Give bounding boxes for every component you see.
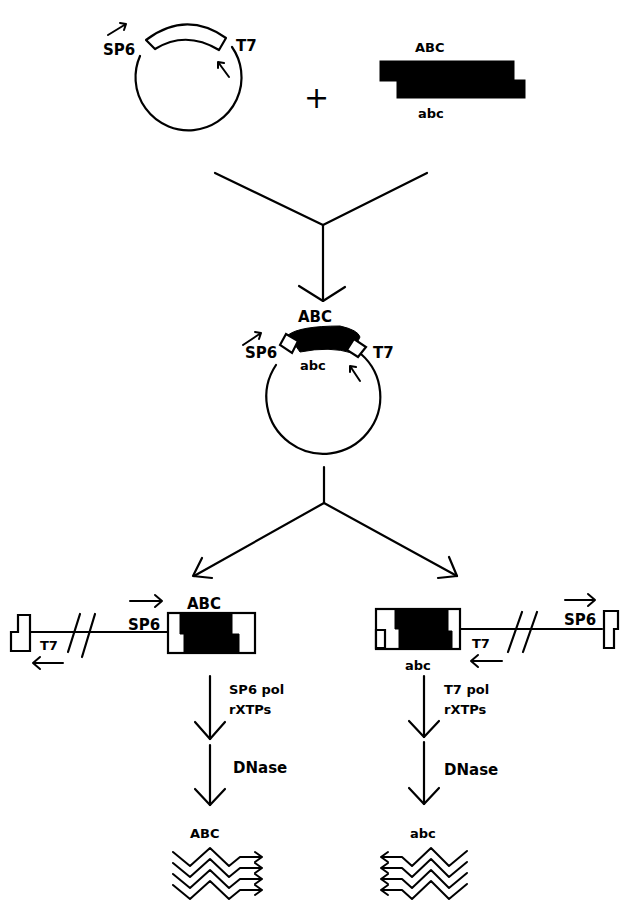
top-strand-label: ABC xyxy=(298,308,332,326)
sp6-direction-arrow-icon xyxy=(130,595,162,607)
far-promoter-label: T7 xyxy=(40,638,58,653)
near-promoter-label: T7 xyxy=(472,636,490,651)
t7-direction-arrow-icon xyxy=(350,366,360,381)
insert-dna-fragment: ABC abc xyxy=(380,40,525,121)
sp6-label: SP6 xyxy=(245,344,277,362)
sp6-direction-arrow-icon xyxy=(565,594,595,606)
right-reaction-steps: T7 pol rXTPs DNase xyxy=(409,676,498,804)
polymerase-label: SP6 pol xyxy=(229,682,284,697)
far-promoter-label: SP6 xyxy=(564,611,596,629)
plus-sign: + xyxy=(304,80,329,115)
insert-label: ABC xyxy=(187,595,221,613)
sp6-direction-arrow-icon xyxy=(108,23,126,35)
insert-end-notch xyxy=(376,630,385,648)
near-promoter-label: SP6 xyxy=(128,616,160,634)
multiple-cloning-site xyxy=(146,24,226,50)
insert-bottom-strand-label: abc xyxy=(418,106,444,121)
insert-fragment xyxy=(180,614,239,652)
product-label: ABC xyxy=(190,826,220,841)
transcription-diagram: SP6 T7 + ABC abc ABC abc SP6 T7 xyxy=(0,0,635,924)
t7-direction-arrow-icon xyxy=(471,655,502,667)
right-linear-template: SP6 T7 abc xyxy=(376,594,618,673)
empty-vector-plasmid: SP6 T7 xyxy=(103,23,257,130)
bottom-strand-label: abc xyxy=(300,358,326,373)
rna-strands-icon xyxy=(381,848,467,899)
product-label: abc xyxy=(410,826,436,841)
insert-fragment xyxy=(395,610,452,648)
t7-label: T7 xyxy=(236,37,257,55)
break-mark-icon xyxy=(68,614,95,657)
nucleotides-label: rXTPs xyxy=(444,702,487,717)
ligation-arrow-icon xyxy=(215,173,427,301)
t7-promoter-end-box xyxy=(11,615,30,651)
dnase-label: DNase xyxy=(444,761,498,779)
polymerase-label: T7 pol xyxy=(444,682,489,697)
antisense-rna-transcripts: abc xyxy=(381,826,467,899)
insert-bottom-strand xyxy=(397,80,525,98)
linearization-split-arrow-icon xyxy=(193,467,457,578)
t7-direction-arrow-icon xyxy=(218,62,229,77)
plasmid-backbone xyxy=(136,47,242,130)
insert-top-strand xyxy=(380,61,514,81)
insert-top-strand-label: ABC xyxy=(415,40,445,55)
sp6-label: SP6 xyxy=(103,41,135,59)
sense-rna-transcripts: ABC xyxy=(173,826,262,899)
recombinant-plasmid: ABC abc SP6 T7 xyxy=(243,308,394,454)
sp6-promoter-end-box xyxy=(604,611,618,648)
break-mark-icon xyxy=(508,612,537,652)
left-reaction-steps: SP6 pol rXTPs DNase xyxy=(195,676,287,805)
left-linear-template: T7 SP6 ABC xyxy=(11,595,255,669)
dnase-label: DNase xyxy=(233,759,287,777)
t7-label: T7 xyxy=(373,344,394,362)
insert-label: abc xyxy=(405,658,431,673)
nucleotides-label: rXTPs xyxy=(229,702,272,717)
t7-direction-arrow-icon xyxy=(33,657,63,669)
rna-strands-icon xyxy=(173,848,262,899)
